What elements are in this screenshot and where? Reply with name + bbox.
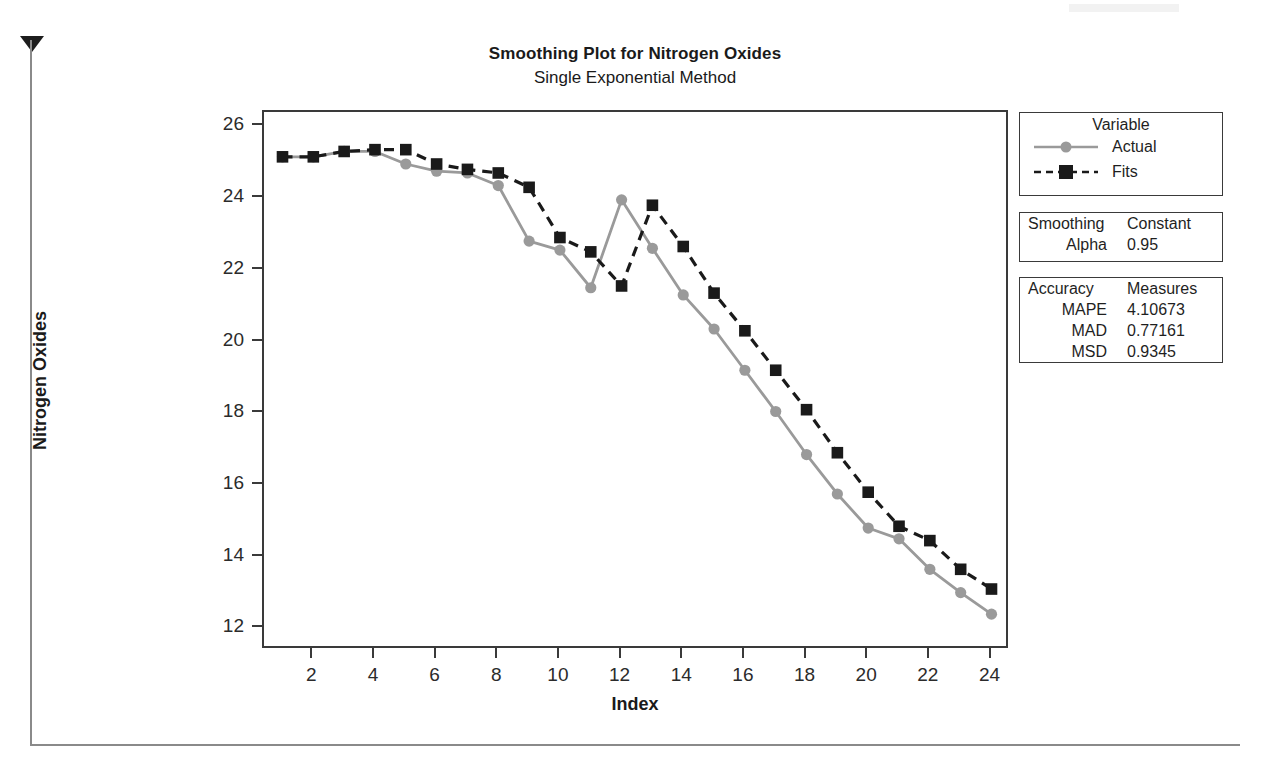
x-tick-16: 16 [723,664,763,686]
data-point [492,167,504,179]
x-axis-title: Index [262,694,1008,715]
accuracy-key-mad: MAD [1020,320,1121,341]
y-tick-mark-20 [252,339,262,341]
data-point [739,365,750,376]
data-point [647,243,658,254]
x-tick-18: 18 [785,664,825,686]
data-point [832,488,843,499]
y-tick-24: 24 [204,185,244,207]
series-actual [277,146,997,620]
legend-symbol-actual-line-circle [1030,137,1102,157]
data-point [585,246,597,258]
data-point [708,287,720,299]
data-point [739,325,751,337]
data-point [400,158,411,169]
data-point [801,449,812,460]
data-point [924,535,936,547]
y-tick-mark-16 [252,482,262,484]
data-point [677,241,689,253]
accuracy-header-left: Accuracy [1020,278,1121,299]
data-point [462,164,474,176]
legend-title: Variable [1020,113,1222,134]
series-fits [277,144,998,595]
x-tick-12: 12 [600,664,640,686]
y-axis-title: Nitrogen Oxides [30,261,51,501]
y-tick-20: 20 [204,329,244,351]
y-tick-12: 12 [204,615,244,637]
data-point [986,609,997,620]
plot-area [262,110,1008,648]
legend-label-actual: Actual [1102,138,1156,156]
y-tick-mark-18 [252,410,262,412]
data-point [493,180,504,191]
chart-title: Smoothing Plot for Nitrogen Oxides [262,44,1008,64]
page-canvas: Smoothing Plot for Nitrogen Oxides Singl… [0,0,1269,780]
data-point [708,323,719,334]
data-point [801,404,813,416]
data-point [770,406,781,417]
accuracy-header-right: Measures [1121,278,1222,299]
data-point [277,151,289,163]
data-point [338,146,350,158]
accuracy-value-msd: 0.9345 [1121,341,1222,362]
accuracy-measures-box: Accuracy Measures MAPE4.10673MAD0.77161M… [1019,277,1223,363]
data-point [955,564,967,576]
legend-item-actual[interactable]: Actual [1020,134,1222,159]
data-point [832,447,844,459]
data-point [893,533,904,544]
y-tick-16: 16 [204,472,244,494]
data-point [863,522,874,533]
y-tick-mark-26 [252,123,262,125]
chart-subtitle: Single Exponential Method [262,68,1008,88]
x-tick-22: 22 [908,664,948,686]
x-tick-8: 8 [476,664,516,686]
data-point [678,289,689,300]
page-margin-rule-horizontal [30,744,1240,746]
data-point [554,244,565,255]
smoothing-constant-box: Smoothing Constant Alpha 0.95 [1019,212,1223,262]
data-point [955,587,966,598]
series-canvas [264,112,1010,650]
x-tick-14: 14 [661,664,701,686]
smoothing-header-right: Constant [1121,213,1222,234]
data-point [616,280,628,292]
y-tick-26: 26 [204,113,244,135]
legend-item-fits[interactable]: Fits [1020,159,1222,184]
accuracy-key-mape: MAPE [1020,299,1121,320]
smoothing-alpha-key: Alpha [1020,234,1121,255]
page-header-artifact [1069,4,1179,12]
data-point [524,236,535,247]
y-tick-mark-24 [252,195,262,197]
y-tick-22: 22 [204,257,244,279]
legend-symbol-fits-dashed-square [1030,162,1102,182]
accuracy-value-mad: 0.77161 [1121,320,1222,341]
y-tick-mark-14 [252,554,262,556]
data-point [554,232,566,244]
legend-label-fits: Fits [1102,163,1138,181]
data-point [585,282,596,293]
x-tick-20: 20 [846,664,886,686]
y-tick-mark-22 [252,267,262,269]
smoothing-alpha-value: 0.95 [1121,234,1222,255]
series-line-actual [283,151,992,614]
data-point [770,364,782,376]
y-tick-mark-12 [252,625,262,627]
y-tick-18: 18 [204,400,244,422]
data-point [523,182,535,194]
series-line-fits [283,150,992,589]
data-point [431,158,443,170]
data-point [893,520,905,532]
x-tick-24: 24 [970,664,1010,686]
accuracy-value-mape: 4.10673 [1121,299,1222,320]
smoothing-header-left: Smoothing [1020,213,1121,234]
x-tick-6: 6 [415,664,455,686]
x-tick-4: 4 [353,664,393,686]
margin-triangle-marker [20,36,44,52]
data-point [862,486,874,498]
data-point [924,564,935,575]
data-point [986,583,998,595]
data-point [400,144,412,156]
data-point [308,151,320,163]
x-tick-10: 10 [538,664,578,686]
y-tick-14: 14 [204,544,244,566]
